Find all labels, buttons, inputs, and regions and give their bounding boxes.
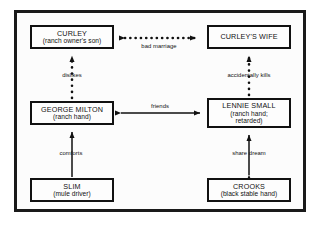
- edge-label-share-dream: share dream: [224, 150, 274, 156]
- node-curleys-wife-title: CURLEY'S WIFE: [220, 33, 277, 41]
- node-slim[interactable]: SLIM (mule driver): [30, 178, 114, 202]
- node-crooks-title: CROOKS: [233, 183, 265, 191]
- edge-label-dislikes: dislikes: [48, 72, 96, 78]
- node-george-milton-subtitle: (ranch hand): [53, 113, 91, 120]
- node-slim-subtitle: (mule driver): [53, 190, 91, 197]
- edge-label-accidentally-kills: accidentally kills: [215, 72, 283, 78]
- node-lennie-small[interactable]: LENNIE SMALL (ranch hand; retarded): [207, 98, 291, 128]
- node-george-milton[interactable]: GEORGE MILTON (ranch hand): [30, 101, 114, 125]
- node-curley[interactable]: CURLEY (ranch owner's son): [30, 25, 114, 49]
- edge-label-comforts: comforts: [47, 150, 95, 156]
- edge-label-friends: friends: [136, 103, 184, 109]
- node-lennie-small-subtitle-line2: retarded): [235, 117, 262, 124]
- node-crooks-subtitle: (black stable hand): [221, 190, 278, 197]
- node-lennie-small-title: LENNIE SMALL: [222, 102, 275, 110]
- node-slim-title: SLIM: [63, 183, 80, 191]
- node-curley-title: CURLEY: [57, 30, 87, 38]
- node-curleys-wife[interactable]: CURLEY'S WIFE: [207, 25, 291, 49]
- node-crooks[interactable]: CROOKS (black stable hand): [207, 178, 291, 202]
- node-lennie-small-subtitle: (ranch hand;: [230, 110, 268, 117]
- edge-label-bad-marriage: bad marriage: [131, 43, 187, 49]
- node-curley-subtitle: (ranch owner's son): [43, 37, 102, 44]
- diagram-page: CURLEY (ranch owner's son) CURLEY'S WIFE…: [0, 0, 321, 227]
- node-george-milton-title: GEORGE MILTON: [41, 106, 103, 114]
